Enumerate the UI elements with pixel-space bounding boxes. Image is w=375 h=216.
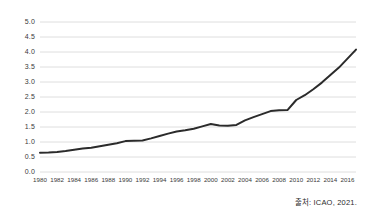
y-axis-tick-label: 1.0 — [15, 138, 35, 146]
y-axis-tick-label: 0.5 — [15, 153, 35, 161]
y-axis-tick-label: 4.0 — [15, 48, 35, 56]
x-axis-tick-label: 2016 — [336, 176, 358, 184]
data-series — [40, 50, 356, 153]
series-line — [40, 50, 356, 153]
y-axis-tick-label: 3.5 — [15, 63, 35, 71]
gridlines — [40, 22, 356, 172]
y-axis-tick-label: 2.0 — [15, 108, 35, 116]
line-chart: 0.00.51.01.52.02.53.03.54.04.55.0 198019… — [0, 0, 375, 216]
y-axis-tick-label: 3.0 — [15, 78, 35, 86]
y-axis-tick-label: 4.5 — [15, 33, 35, 41]
y-axis-tick-label: 5.0 — [15, 18, 35, 26]
source-note: 출처: ICAO, 2021. — [295, 196, 357, 207]
y-axis-tick-label: 0.0 — [15, 168, 35, 176]
y-axis-tick-label: 2.5 — [15, 93, 35, 101]
y-axis-tick-label: 1.5 — [15, 123, 35, 131]
